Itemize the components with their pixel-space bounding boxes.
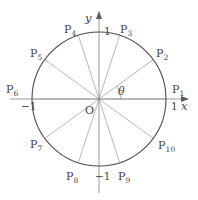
point-label-p5: P5 <box>30 48 42 62</box>
point-label-p9: P9 <box>118 171 130 185</box>
point-label-p2: P2 <box>156 48 168 62</box>
point-label-p7: P7 <box>30 139 42 153</box>
point-label-p6: P6 <box>6 84 18 98</box>
y-axis-label: y <box>85 13 92 25</box>
y-axis-arrow <box>96 11 102 19</box>
point-label-p10: P10 <box>158 140 175 154</box>
tick-label-y-negative: −1 <box>95 171 110 182</box>
point-label-p8: P8 <box>66 171 78 185</box>
tick-label-x-positive: 1 <box>171 101 178 112</box>
tick-label-x-negative: −1 <box>21 101 36 112</box>
point-label-p4: P4 <box>64 24 76 38</box>
point-label-p3: P3 <box>120 24 132 38</box>
tick-label-y-positive: 1 <box>104 26 111 37</box>
angle-theta-label: θ <box>118 86 125 97</box>
x-axis-label: x <box>181 101 188 113</box>
unit-circle-figure: P1 P2 P3 P4 P5 P6 P7 P8 P9 P10 1 −1 1 −1… <box>0 0 198 200</box>
point-label-p1: P1 <box>172 84 184 98</box>
origin-label: O <box>85 105 94 116</box>
